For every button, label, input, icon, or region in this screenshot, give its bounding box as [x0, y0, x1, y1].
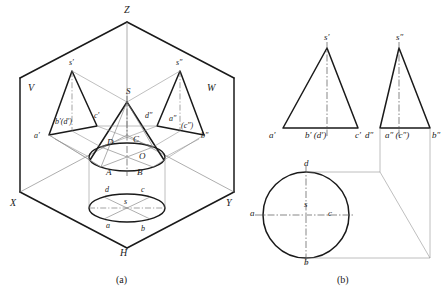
w-label-d-dprime: d″ — [145, 111, 152, 120]
h-label-d: d — [105, 185, 109, 194]
point-label-O: O — [139, 151, 146, 161]
w-label-b-dprime: b″ — [201, 131, 208, 140]
v-label-c-prime: c′ — [94, 111, 99, 120]
caption-b: (b) — [337, 274, 349, 285]
axis-label-Z: Z — [124, 4, 130, 15]
top-label-a: a — [250, 208, 255, 218]
h-label-b: b — [141, 224, 145, 233]
part-b-group — [255, 42, 430, 264]
h-label-a: a — [106, 221, 110, 230]
w-label-c-dprime: (c″) — [181, 121, 193, 130]
caption-a: (a) — [116, 274, 127, 285]
side-label-d-dprime: d″ — [365, 130, 373, 140]
plane-label-W: W — [207, 82, 215, 93]
point-label-D: D — [107, 137, 114, 147]
side-view — [380, 42, 430, 136]
point-label-C: C — [133, 134, 139, 144]
side-label-a-c-dprime: a″ (c″) — [385, 130, 409, 140]
top-label-d: d — [304, 158, 309, 168]
top-label-b: b — [304, 257, 309, 267]
front-label-c-prime: c′ — [355, 130, 361, 140]
h-label-c: c — [141, 185, 145, 194]
axis-label-Y: Y — [226, 197, 232, 208]
w-label-s-dprime: s″ — [176, 58, 182, 67]
front-label-a-prime: a′ — [269, 130, 275, 140]
front-label-b-d-prime: b′ (d′) — [305, 130, 326, 140]
top-label-s: s — [304, 199, 308, 209]
axis-label-X: X — [10, 197, 16, 208]
plane-label-H: H — [120, 247, 127, 258]
correspondence-construction — [306, 128, 430, 258]
front-label-s-prime: s′ — [324, 32, 329, 42]
point-label-S: S — [126, 86, 131, 96]
drawing-svg: .thick{stroke:#1a1a1a;stroke-width:1.5;f… — [0, 0, 446, 295]
front-view — [283, 42, 358, 136]
v-label-a-prime: a′ — [34, 131, 40, 140]
point-label-A: A — [106, 167, 112, 177]
h-label-s: s — [124, 197, 127, 206]
top-label-c: c — [328, 208, 332, 218]
v-label-b-d-prime: b′(d′) — [55, 117, 72, 126]
v-label-s-prime: s′ — [69, 58, 74, 67]
plane-label-V: V — [28, 82, 34, 93]
w-label-a-dprime: a″ — [169, 114, 176, 123]
figure-canvas: .thick{stroke:#1a1a1a;stroke-width:1.5;f… — [0, 0, 446, 295]
side-label-b-dprime: b″ — [432, 130, 440, 140]
top-view — [255, 166, 355, 264]
point-label-B: B — [137, 167, 143, 177]
side-label-s-dprime: s″ — [396, 32, 403, 42]
